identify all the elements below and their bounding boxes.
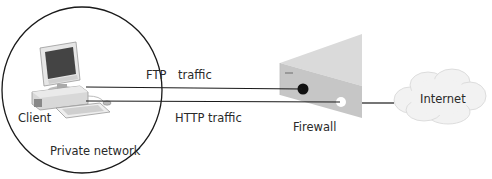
- http-traffic-label: HTTP traffic: [175, 111, 242, 125]
- http-traffic-line: [86, 101, 340, 102]
- internet-label: Internet: [420, 92, 466, 106]
- client-computer-icon: [32, 42, 111, 118]
- firewall-device-icon: [280, 34, 362, 118]
- firewall-label: Firewall: [293, 120, 336, 134]
- client-label: Client: [18, 111, 51, 125]
- private-network-label: Private network: [50, 144, 140, 158]
- ftp-traffic-line: [86, 87, 302, 89]
- ftp-traffic-label: FTP traffic: [146, 68, 212, 82]
